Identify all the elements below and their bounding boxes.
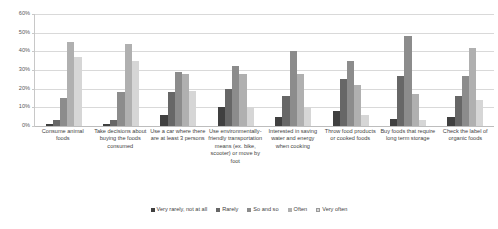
legend-item[interactable]: Very rarely, not at all xyxy=(151,207,208,213)
bar-group xyxy=(150,14,207,126)
bar[interactable] xyxy=(182,74,189,126)
bar[interactable] xyxy=(74,57,81,126)
plot-area: 0%10%20%30%40%50%60% xyxy=(0,0,498,140)
bar[interactable] xyxy=(175,72,182,126)
gridline xyxy=(35,126,494,127)
legend-label: Very rarely, not at all xyxy=(157,207,208,213)
y-axis-tick-label: 10% xyxy=(19,105,30,111)
chart-legend: Very rarely, not at allRarelySo and soOf… xyxy=(0,207,498,213)
bar[interactable] xyxy=(232,66,239,126)
y-axis-tick-label: 60% xyxy=(19,11,30,17)
bar[interactable] xyxy=(46,124,53,126)
x-axis-category-label: Throw food products or cooked foods xyxy=(322,128,380,165)
bar[interactable] xyxy=(476,100,483,126)
x-axis-category-label: Consume animal foods xyxy=(34,128,92,165)
bar[interactable] xyxy=(239,74,246,126)
bar[interactable] xyxy=(282,96,289,126)
bar[interactable] xyxy=(67,42,74,126)
bar[interactable] xyxy=(354,85,361,126)
x-axis-category-label: Use a car where there are at least 3 per… xyxy=(149,128,207,165)
x-axis-category-label: Buy foods that require long term storage xyxy=(379,128,437,165)
legend-item[interactable]: Rarely xyxy=(216,207,238,213)
bar[interactable] xyxy=(110,120,117,126)
y-axis: 0%10%20%30%40%50%60% xyxy=(0,14,32,126)
x-axis-category-label: Use environmentally-friendly transportat… xyxy=(207,128,265,165)
y-axis-tick-label: 0% xyxy=(22,123,30,129)
bar[interactable] xyxy=(390,119,397,126)
legend-label: So and so xyxy=(253,207,278,213)
legend-swatch-icon xyxy=(151,208,155,212)
bar[interactable] xyxy=(290,51,297,126)
bar[interactable] xyxy=(218,107,225,126)
bar[interactable] xyxy=(340,79,347,126)
bar[interactable] xyxy=(419,120,426,126)
bar[interactable] xyxy=(455,96,462,126)
y-axis-tick-label: 20% xyxy=(19,86,30,92)
x-axis-category-label: Take decisions about buying the foods co… xyxy=(92,128,150,165)
legend-swatch-icon xyxy=(288,208,292,212)
bar[interactable] xyxy=(275,117,282,126)
legend-item[interactable]: Often xyxy=(288,207,308,213)
bar[interactable] xyxy=(333,111,340,126)
bar-group xyxy=(437,14,494,126)
bar[interactable] xyxy=(132,61,139,126)
bar-group xyxy=(379,14,436,126)
bar[interactable] xyxy=(103,124,110,126)
bar[interactable] xyxy=(304,107,311,126)
legend-swatch-icon xyxy=(316,208,320,212)
bar[interactable] xyxy=(404,36,411,126)
legend-label: Very often xyxy=(322,207,347,213)
y-axis-tick-label: 30% xyxy=(19,67,30,73)
bar[interactable] xyxy=(412,94,419,126)
bar-group xyxy=(92,14,149,126)
bar[interactable] xyxy=(60,98,67,126)
x-axis-category-label: Check the label of organic foods xyxy=(437,128,495,165)
y-axis-tick-label: 50% xyxy=(19,30,30,36)
bar-group xyxy=(207,14,264,126)
bar[interactable] xyxy=(361,115,368,126)
bar[interactable] xyxy=(297,74,304,126)
bar-group xyxy=(265,14,322,126)
bar[interactable] xyxy=(225,89,232,126)
legend-item[interactable]: So and so xyxy=(247,207,278,213)
gridlines-and-bars xyxy=(34,14,494,126)
legend-label: Often xyxy=(294,207,308,213)
bar[interactable] xyxy=(347,61,354,126)
bar-chart: 0%10%20%30%40%50%60% Consume animal food… xyxy=(0,0,498,229)
y-axis-tick-label: 40% xyxy=(19,49,30,55)
legend-item[interactable]: Very often xyxy=(316,207,347,213)
bar-group xyxy=(322,14,379,126)
bar[interactable] xyxy=(189,91,196,126)
bar-group xyxy=(35,14,92,126)
bar[interactable] xyxy=(117,92,124,126)
bar[interactable] xyxy=(397,76,404,126)
bar[interactable] xyxy=(125,44,132,126)
bar[interactable] xyxy=(160,115,167,126)
legend-swatch-icon xyxy=(216,208,220,212)
x-axis-category-labels: Consume animal foodsTake decisions about… xyxy=(34,128,494,165)
legend-swatch-icon xyxy=(247,208,251,212)
bar[interactable] xyxy=(247,107,254,126)
bar[interactable] xyxy=(53,120,60,126)
bar[interactable] xyxy=(469,48,476,126)
x-axis-category-label: Interested in saving water and energy wh… xyxy=(264,128,322,165)
bar[interactable] xyxy=(447,117,454,126)
bar[interactable] xyxy=(462,76,469,126)
legend-label: Rarely xyxy=(222,207,238,213)
bar[interactable] xyxy=(168,92,175,126)
bar-groups xyxy=(35,14,494,126)
